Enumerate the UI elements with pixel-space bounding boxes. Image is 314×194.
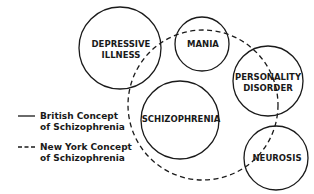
legend-newyork-line1: New York Concept	[40, 142, 133, 152]
label-schizophrenia: SCHIZOPHRENIA	[142, 114, 221, 124]
label-depressive-line1: DEPRESSIVE	[92, 39, 151, 49]
legend-british-line2: of Schizophrenia	[40, 122, 125, 132]
legend-british-line1: British Concept	[40, 111, 119, 121]
diagram-canvas: DEPRESSIVE ILLNESS MANIA PERSONALITY DIS…	[0, 0, 314, 194]
legend-newyork-line2: of Schizophrenia	[40, 153, 125, 163]
label-mania: MANIA	[187, 39, 219, 49]
label-neurosis: NEUROSIS	[253, 153, 302, 163]
label-depressive-line2: ILLNESS	[102, 50, 141, 60]
label-personality-line1: PERSONALITY	[235, 72, 302, 82]
label-personality-line2: DISORDER	[243, 83, 293, 93]
